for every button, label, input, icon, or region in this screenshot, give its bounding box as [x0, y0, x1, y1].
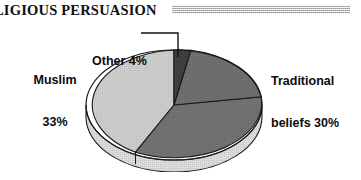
- pie-label-other-text: Other 4%: [92, 54, 147, 68]
- pie-label-other: Other 4%: [92, 26, 147, 96]
- pie-label-muslim: Muslim 33%: [17, 45, 93, 157]
- pie-label-muslim-name: Muslim: [17, 73, 93, 87]
- pie-label-christian: Christian 33%: [228, 154, 311, 180]
- pie-label-traditional: Traditional beliefs 30%: [271, 46, 339, 158]
- chart-screenshot: LIGIOUS PERSUASION: [0, 0, 361, 180]
- pie-label-muslim-value: 33%: [17, 115, 93, 129]
- other-leader-line: [140, 28, 188, 62]
- pie-label-traditional-name: Traditional: [271, 74, 339, 88]
- title-halftone-rule: [172, 5, 350, 14]
- chart-header: LIGIOUS PERSUASION: [0, 0, 361, 22]
- page-title: LIGIOUS PERSUASION: [0, 1, 157, 19]
- pie-label-traditional-value: beliefs 30%: [271, 116, 339, 130]
